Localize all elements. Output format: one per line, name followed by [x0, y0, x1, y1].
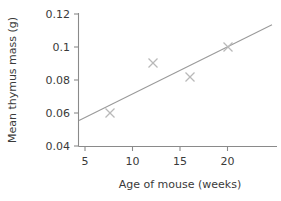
- x-tick-label-10: 10: [126, 155, 140, 168]
- chart-container: 0.12 0.1 0.08 0.06 0.04 5 10 15 20 Age o…: [0, 0, 281, 201]
- x-tick-label-5: 5: [82, 155, 89, 168]
- x-tick-label-15: 15: [173, 155, 187, 168]
- y-tick-label-008: 0.08: [46, 74, 71, 87]
- x-axis-title: Age of mouse (weeks): [119, 178, 242, 191]
- data-point-marker: [149, 59, 158, 68]
- trend-line: [79, 25, 272, 121]
- y-tick-label-006: 0.06: [46, 107, 71, 120]
- y-tick-label-004: 0.04: [46, 140, 71, 153]
- data-point-marker: [186, 73, 195, 82]
- data-point-marker: [106, 109, 115, 118]
- scatter-plot: 0.12 0.1 0.08 0.06 0.04 5 10 15 20 Age o…: [0, 0, 281, 201]
- x-tick-label-20: 20: [221, 155, 235, 168]
- y-axis-title: Mean thymus mass (g): [6, 17, 19, 143]
- y-tick-label-012: 0.12: [46, 8, 71, 21]
- y-tick-label-010: 0.1: [53, 41, 71, 54]
- data-point-marker: [224, 43, 233, 52]
